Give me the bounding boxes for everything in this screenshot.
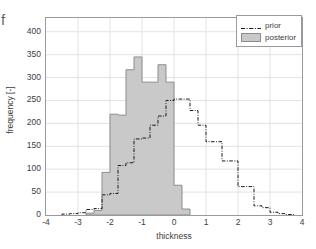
- y-tick-label: 100: [27, 164, 41, 173]
- y-tick-label: 50: [32, 187, 41, 196]
- x-tick-label: 4: [292, 218, 312, 227]
- y-tick-label: 300: [27, 73, 41, 82]
- legend-label-posterior: posterior: [262, 33, 296, 42]
- x-tick-label: -1: [132, 218, 152, 227]
- filled-patch-icon: [240, 32, 262, 43]
- chart-figure: f 050100150200250300350400 frequency [-]…: [0, 0, 316, 249]
- x-tick-label: 3: [260, 218, 280, 227]
- y-tick-label: 250: [27, 95, 41, 104]
- legend-item-posterior: posterior: [240, 31, 298, 43]
- legend-label-prior: prior: [262, 21, 281, 30]
- x-tick-label: -3: [68, 218, 88, 227]
- y-tick-label: 200: [27, 118, 41, 127]
- x-axis-title: thickness: [45, 231, 303, 241]
- x-tick-label: -2: [100, 218, 120, 227]
- plot-canvas: [46, 18, 302, 215]
- legend-item-prior: prior: [240, 19, 298, 31]
- y-tick-label: 350: [27, 50, 41, 59]
- x-tick-label: 1: [196, 218, 216, 227]
- x-tick-label: 0: [164, 218, 184, 227]
- x-axis-ticklabels: -4-3-2-101234: [0, 218, 316, 232]
- dashdot-line-icon: [240, 20, 262, 31]
- y-tick-label: 400: [27, 27, 41, 36]
- y-axis-title: frequency [-]: [5, 62, 15, 158]
- legend: prior posterior: [236, 15, 302, 47]
- y-tick-label: 150: [27, 141, 41, 150]
- x-tick-label: -4: [36, 218, 56, 227]
- x-tick-label: 2: [228, 218, 248, 227]
